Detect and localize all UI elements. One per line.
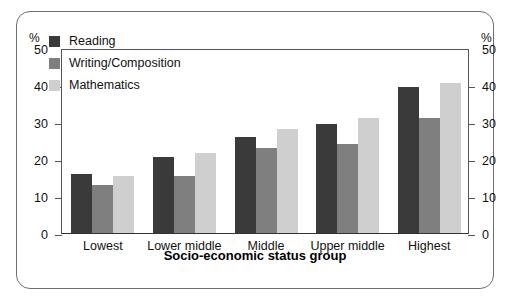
y-tick-label-right: 0: [482, 229, 489, 242]
legend-swatch-icon: [49, 80, 60, 91]
legend-item: Writing/Composition: [49, 52, 181, 74]
chart-figure: % % 01020304050 01020304050 LowestLower …: [16, 11, 494, 289]
y-tick-mark-left: [55, 198, 62, 199]
y-tick-label-left: 0: [0, 229, 48, 242]
legend-swatch-icon: [49, 36, 60, 47]
bar: [337, 144, 358, 233]
legend-swatch-icon: [49, 58, 60, 69]
legend-label: Mathematics: [69, 78, 140, 92]
y-tick-label-right: 40: [482, 81, 496, 94]
y-tick-label-right: 30: [482, 118, 496, 131]
y-tick-mark-left: [55, 161, 62, 162]
y-tick-label-right: 50: [482, 44, 496, 57]
y-tick-label-left: 40: [0, 81, 48, 94]
y-tick-label-right: 10: [482, 192, 496, 205]
bar: [153, 157, 174, 233]
bar-group: [316, 50, 379, 233]
bar: [277, 129, 298, 233]
bar-group: [235, 50, 298, 233]
bar: [256, 148, 277, 233]
legend-item: Mathematics: [49, 74, 181, 96]
bar: [358, 118, 379, 233]
y-tick-mark-left: [55, 124, 62, 125]
legend-label: Reading: [69, 34, 116, 48]
y-tick-mark-left: [55, 235, 62, 236]
bar: [92, 185, 113, 233]
y-tick-label-left: 10: [0, 192, 48, 205]
y-tick-label-left: 50: [0, 44, 48, 57]
y-tick-mark-right: [468, 124, 475, 125]
bar: [316, 124, 337, 233]
bar: [174, 176, 195, 233]
bar: [398, 87, 419, 233]
y-tick-label-left: 30: [0, 118, 48, 131]
legend: ReadingWriting/CompositionMathematics: [49, 30, 181, 96]
bar: [71, 174, 92, 233]
y-tick-mark-right: [468, 235, 475, 236]
legend-label: Writing/Composition: [69, 56, 181, 70]
bar: [195, 153, 216, 233]
bar: [440, 83, 461, 233]
bar: [419, 118, 440, 233]
bar: [113, 176, 134, 233]
y-tick-mark-right: [468, 87, 475, 88]
y-tick-mark-right: [468, 161, 475, 162]
y-tick-mark-right: [468, 198, 475, 199]
y-tick-label-right: 20: [482, 155, 496, 168]
y-tick-label-left: 20: [0, 155, 48, 168]
bar: [235, 137, 256, 233]
legend-item: Reading: [49, 30, 181, 52]
x-axis-title: Socio-economic status group: [17, 248, 493, 263]
bar-group: [398, 50, 461, 233]
